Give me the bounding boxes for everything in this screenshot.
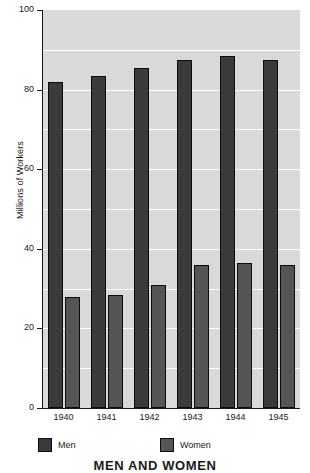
x-axis-tick-label-1944: 1944 [213,412,259,422]
gridline [42,249,300,250]
bar-women-1941 [108,295,123,408]
gridline [42,129,300,130]
y-axis-line [42,10,43,409]
gridline [42,328,300,329]
y-axis-tick-label: 60 [0,164,34,173]
y-axis-tick-label: 20 [0,323,34,332]
x-axis-line [42,408,300,409]
gridline [42,90,300,91]
bar-women-1944 [237,263,252,408]
y-axis-tick-label: 0 [0,403,34,412]
x-axis-tick-label-1945: 1945 [256,412,302,422]
y-axis-tick-label: 100 [0,5,34,14]
gridline [42,209,300,210]
bar-women-1940 [65,297,80,408]
gridline [42,368,300,369]
bar-men-1945 [263,60,278,408]
bar-women-1942 [151,285,166,408]
y-axis-tick [37,10,42,11]
gridline [42,50,300,51]
y-axis-tick-label: 80 [0,85,34,94]
bar-men-1942 [134,68,149,408]
plot-area [42,10,300,408]
y-axis-label: Millions of Workers [15,100,25,260]
legend-entry-women: Women [160,437,211,453]
chart-title: MEN AND WOMEN [0,458,310,473]
y-axis-tick [37,408,42,409]
chart-legend: MenWomen [38,437,278,455]
x-axis-tick-label-1942: 1942 [127,412,173,422]
legend-label-men: Men [58,440,76,450]
x-axis-tick-label-1943: 1943 [170,412,216,422]
bar-men-1940 [48,82,63,408]
legend-entry-men: Men [38,437,76,453]
y-axis-tick [37,90,42,91]
legend-swatch-women [160,438,174,452]
bar-men-1941 [91,76,106,408]
gridline [42,289,300,290]
x-axis-tick-label-1940: 1940 [41,412,87,422]
gridline [42,169,300,170]
y-axis-tick [37,249,42,250]
y-axis-tick [37,169,42,170]
x-axis-tick-label-1941: 1941 [84,412,130,422]
bar-men-1944 [220,56,235,408]
bar-women-1945 [280,265,295,408]
bar-women-1943 [194,265,209,408]
legend-label-women: Women [180,440,211,450]
legend-swatch-men [38,438,52,452]
y-axis-tick [37,328,42,329]
bar-men-1943 [177,60,192,408]
y-axis-tick-label: 40 [0,244,34,253]
